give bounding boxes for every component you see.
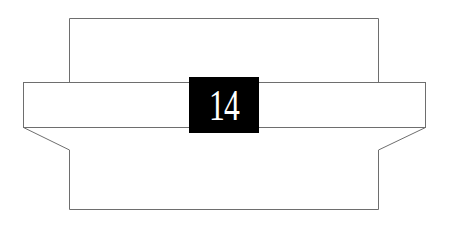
left-diagonal: [24, 128, 70, 151]
inner-rect-top: [70, 19, 379, 83]
right-diagonal: [379, 128, 426, 151]
inner-rect-bottom: [70, 150, 379, 210]
number-label: 14: [209, 84, 239, 128]
number-badge: 14: [189, 77, 259, 133]
